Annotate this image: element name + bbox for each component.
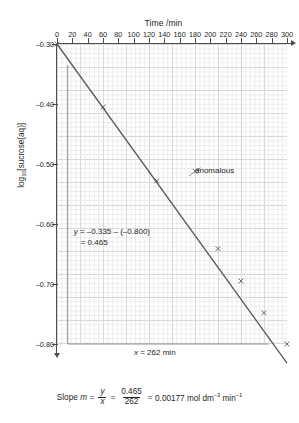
slope-caption-equals-2: =: [110, 393, 115, 402]
annotation-run: x = 262 min: [134, 348, 176, 357]
slope-caption-equals-1: =: [90, 393, 95, 402]
annotation-rise-line1-text: = –0.335 – (–0.800): [78, 227, 150, 236]
x-tick-label-140: 140: [158, 30, 170, 39]
slope-result-exp-2: –1: [236, 392, 242, 398]
slope-fraction-yx-denominator: x: [98, 397, 106, 407]
x-tick-label-20: 20: [68, 30, 76, 39]
y-tick-label-3: –0.60: [36, 220, 54, 229]
slope-result-value: 0.00177: [155, 393, 185, 402]
y-tick-label-0: –0.30: [36, 40, 54, 49]
x-tick-label-60: 60: [99, 30, 107, 39]
y-tick-label-2: –0.50: [36, 160, 54, 169]
x-tick-label-120: 120: [143, 30, 155, 39]
slope-fraction-yx-numerator: y: [98, 388, 106, 397]
slope-caption-equals-3: =: [148, 393, 153, 402]
x-tick-label-200: 200: [204, 30, 216, 39]
annotation-anomalous: anomalous: [195, 166, 234, 175]
y-axis-label-rest: [sucrose(aq)]: [17, 123, 26, 171]
x-tick-label-300: 300: [281, 30, 293, 39]
slope-caption-m: m: [80, 393, 87, 402]
y-tick-label-5: –0.80: [36, 340, 54, 349]
chart-figure: Time /min 020406080100120140160180200220…: [0, 0, 299, 423]
x-tick-label-100: 100: [128, 30, 140, 39]
slope-fraction-values-denominator: 262: [123, 397, 141, 407]
slope-fraction-values: 0.465 262: [119, 388, 144, 406]
y-tick-label-1: –0.40: [36, 100, 54, 109]
x-tick-label-160: 160: [174, 30, 186, 39]
annotation-rise-line1: y = –0.335 – (–0.800): [74, 226, 150, 237]
annotation-rise-line2: = 0.465: [74, 237, 150, 248]
slope-caption-lead: Slope: [57, 393, 78, 402]
x-axis-tick-labels: 0204060801001201401601802002202402602803…: [57, 30, 287, 41]
y-axis-label-sub: 10: [21, 171, 27, 177]
y-axis-label-main: log: [17, 177, 26, 188]
x-tick-label-80: 80: [114, 30, 122, 39]
x-tick-label-40: 40: [84, 30, 92, 39]
x-tick-label-240: 240: [235, 30, 247, 39]
y-tick-label-4: –0.70: [36, 280, 54, 289]
slope-caption-result: 0.00177 mol dm–3 min–1: [155, 392, 242, 403]
slope-fraction-values-numerator: 0.465: [119, 388, 144, 397]
slope-result-unit-1: mol dm: [187, 393, 214, 402]
annotation-rise: y = –0.335 – (–0.800) = 0.465: [74, 226, 150, 248]
x-tick-label-220: 220: [220, 30, 232, 39]
x-tick-label-260: 260: [250, 30, 262, 39]
annotation-run-text: = 262 min: [138, 348, 176, 357]
x-tick-label-180: 180: [189, 30, 201, 39]
slope-result-unit-2: min: [223, 393, 236, 402]
slope-result-exp-1: –3: [214, 392, 220, 398]
y-axis-label: log10[sucrose(aq)]: [17, 85, 28, 225]
x-tick-label-0: 0: [55, 30, 59, 39]
slope-caption: Slope m = y x = 0.465 262 = 0.00177 mol …: [0, 388, 299, 406]
x-tick-label-280: 280: [266, 30, 278, 39]
slope-fraction-yx: y x: [98, 388, 106, 406]
